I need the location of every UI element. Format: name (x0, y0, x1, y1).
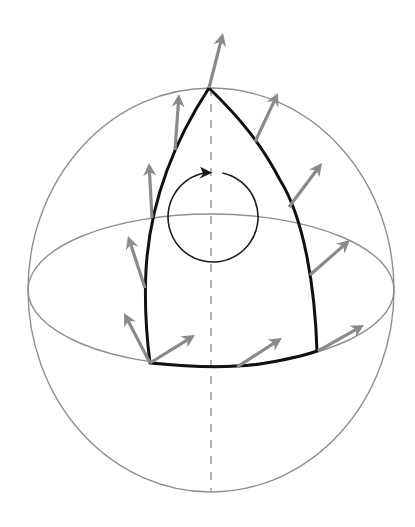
vector-bottom-3 (318, 325, 364, 351)
vector-right-2 (289, 163, 322, 207)
vector-shaft (255, 101, 274, 142)
vector-bottom-1 (150, 335, 195, 363)
vector-shaft (310, 246, 343, 275)
vector-left-3 (126, 236, 145, 288)
rotation-arc (168, 173, 258, 262)
vector-pole (209, 33, 226, 88)
vector-shaft (289, 170, 317, 207)
vector-shaft (131, 245, 145, 288)
parallel-transport-diagram (0, 0, 415, 527)
vector-shaft (209, 42, 221, 88)
vector-right-3 (255, 93, 278, 142)
vector-shaft (318, 329, 356, 351)
vector-shaft (150, 340, 187, 363)
geodesic-triangle (145, 88, 317, 367)
vector-right-1 (310, 240, 350, 275)
tangent-vectors (124, 33, 364, 367)
vector-shaft (150, 172, 153, 218)
